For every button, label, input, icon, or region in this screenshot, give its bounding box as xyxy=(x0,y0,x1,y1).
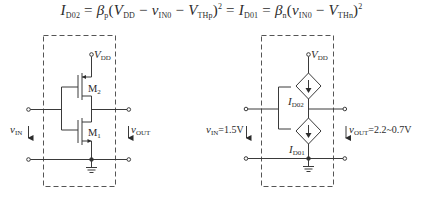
id02-dependent-current-source-icon xyxy=(296,73,321,99)
left-bottom-right-terminal xyxy=(127,158,131,162)
left-vdd-terminal xyxy=(90,53,94,57)
m1-label: M1 xyxy=(88,127,101,140)
right-vout-label: vOUT=2.2~0.7V xyxy=(349,123,412,137)
right-current-source-model-circuit xyxy=(244,36,346,187)
m2-source-arrow-icon xyxy=(82,75,86,79)
id01-label: ID01 xyxy=(288,143,305,157)
right-input-terminal xyxy=(244,107,248,111)
right-output-terminal xyxy=(343,107,347,111)
left-vin-label: vIN xyxy=(10,123,22,137)
circuit-diagrams: VDD M2 M1 vIN vOUT xyxy=(0,0,423,200)
right-ground-icon xyxy=(303,159,314,172)
left-cmos-inverter-circuit xyxy=(27,36,131,187)
id02-label: ID02 xyxy=(287,95,304,109)
right-vin-label: vIN=1.5V xyxy=(206,123,244,137)
right-vdd-terminal xyxy=(307,53,311,57)
right-bottom-right-terminal xyxy=(343,157,347,161)
left-vdd-label: VDD xyxy=(94,48,111,62)
left-input-terminal xyxy=(27,108,31,112)
m2-label: M2 xyxy=(88,83,101,96)
left-ground-icon xyxy=(86,160,97,173)
id01-dependent-current-source-icon xyxy=(296,118,321,144)
left-output-terminal xyxy=(127,108,131,112)
left-vout-label: vOUT xyxy=(131,123,151,137)
m1-source-arrow-icon xyxy=(88,139,92,143)
right-bottom-left-terminal xyxy=(244,157,248,161)
left-bottom-left-terminal xyxy=(27,158,31,162)
right-vdd-label: VDD xyxy=(311,48,328,62)
